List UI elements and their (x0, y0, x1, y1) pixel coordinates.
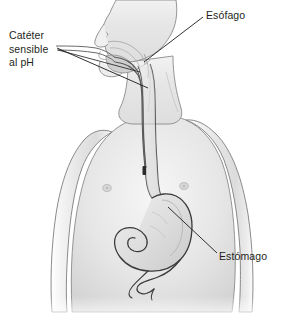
label-stomach: Estómago (219, 250, 267, 264)
label-esophagus: Esófago (206, 9, 245, 23)
nipple-left (103, 185, 111, 192)
label-catheter-line2: sensible (9, 43, 48, 55)
label-catheter: Catétersensibleal pH (9, 29, 48, 70)
ph-catheter-diagram: Catétersensibleal pH Esófago Estómago (0, 0, 285, 322)
label-catheter-line3: al pH (9, 56, 34, 68)
catheter-tip (143, 166, 147, 175)
label-catheter-line1: Catéter (9, 29, 44, 41)
nipple-right (180, 183, 188, 190)
